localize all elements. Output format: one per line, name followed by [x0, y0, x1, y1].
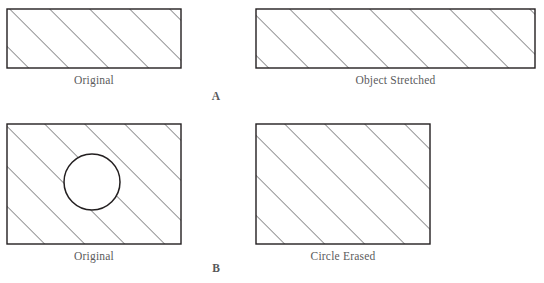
a-stretched-hatch-fill	[256, 9, 535, 68]
section-label-a: A	[196, 90, 236, 103]
shape-b-original	[7, 124, 181, 244]
caption-a-original: Original	[7, 74, 181, 87]
section-label-b: B	[196, 262, 236, 275]
b-erased-hatch-fill	[256, 124, 430, 244]
shape-b-erased	[256, 124, 430, 244]
diagram-canvas	[0, 0, 544, 283]
b-original-hatch-fill	[7, 124, 181, 244]
shape-a-stretched	[256, 9, 535, 68]
caption-b-original: Original	[7, 250, 181, 263]
shape-a-original	[7, 9, 181, 68]
caption-b-circle-erased: Circle Erased	[256, 250, 430, 263]
caption-a-object-stretched: Object Stretched	[256, 74, 535, 87]
a-original-hatch-fill	[7, 9, 181, 68]
figure-root: Original Object Stretched A Original Cir…	[0, 0, 544, 283]
